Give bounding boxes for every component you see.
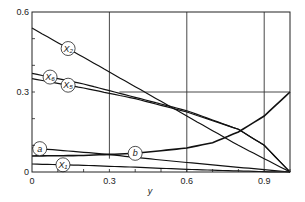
svg-text:X₆: X₆ bbox=[44, 72, 55, 82]
series-label-b: b bbox=[128, 146, 142, 160]
svg-text:X₅: X₅ bbox=[62, 80, 73, 90]
x-tick-label: 0.3 bbox=[103, 176, 116, 186]
series-line-x5 bbox=[32, 79, 290, 172]
series-label-x5: X₅ bbox=[61, 78, 75, 92]
x-tick-label: 0.9 bbox=[258, 176, 271, 186]
x-axis-label: y bbox=[147, 186, 153, 196]
y-tick-label: 0 bbox=[24, 167, 29, 177]
series-label-x2: X₂ bbox=[61, 42, 75, 56]
svg-text:X₁: X₁ bbox=[58, 160, 68, 170]
svg-text:b: b bbox=[133, 148, 138, 158]
svg-text:X₂: X₂ bbox=[62, 44, 73, 54]
x-tick-label: 0.6 bbox=[181, 176, 194, 186]
svg-text:a: a bbox=[37, 144, 42, 154]
series-label-a: a bbox=[33, 142, 47, 156]
y-tick-label: 0.3 bbox=[16, 87, 29, 97]
series-label-x6: X₆ bbox=[43, 70, 57, 84]
y-tick-label: 0.6 bbox=[16, 7, 29, 17]
chart: X₂X₆X₅abX₁ 00.30.60.900.30.6 y bbox=[0, 0, 305, 202]
x-tick-label: 0 bbox=[29, 176, 34, 186]
